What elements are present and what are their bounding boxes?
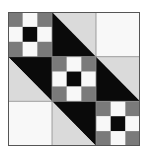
nine-patch-square [52,72,67,87]
nine-patch-square [111,131,126,146]
nine-patch-square [23,27,38,42]
nine-patch-square [125,101,140,116]
nine-patch-square [52,57,67,72]
nine-patch-square [125,131,140,146]
nine-patch-square [37,42,52,57]
nine-patch-square [37,12,52,27]
nine-patch-square [67,57,82,72]
nine-patch-square [81,57,96,72]
nine-patch-square [96,131,111,146]
nine-patch-square [67,72,82,87]
nine-patch-square [8,27,23,42]
quilt-block [8,12,140,146]
plain-square [8,101,52,146]
nine-patch-square [37,27,52,42]
nine-patch-square [81,72,96,87]
nine-patch-square [96,116,111,131]
plain-square [96,12,140,57]
quilt-block-graphic [8,12,140,146]
nine-patch-square [67,86,82,101]
nine-patch-square [23,42,38,57]
nine-patch-square [8,42,23,57]
nine-patch-square [111,116,126,131]
nine-patch-square [111,101,126,116]
nine-patch-square [96,101,111,116]
nine-patch-square [8,12,23,27]
nine-patch-square [52,86,67,101]
nine-patch-square [81,86,96,101]
nine-patch-square [23,12,38,27]
nine-patch-square [125,116,140,131]
